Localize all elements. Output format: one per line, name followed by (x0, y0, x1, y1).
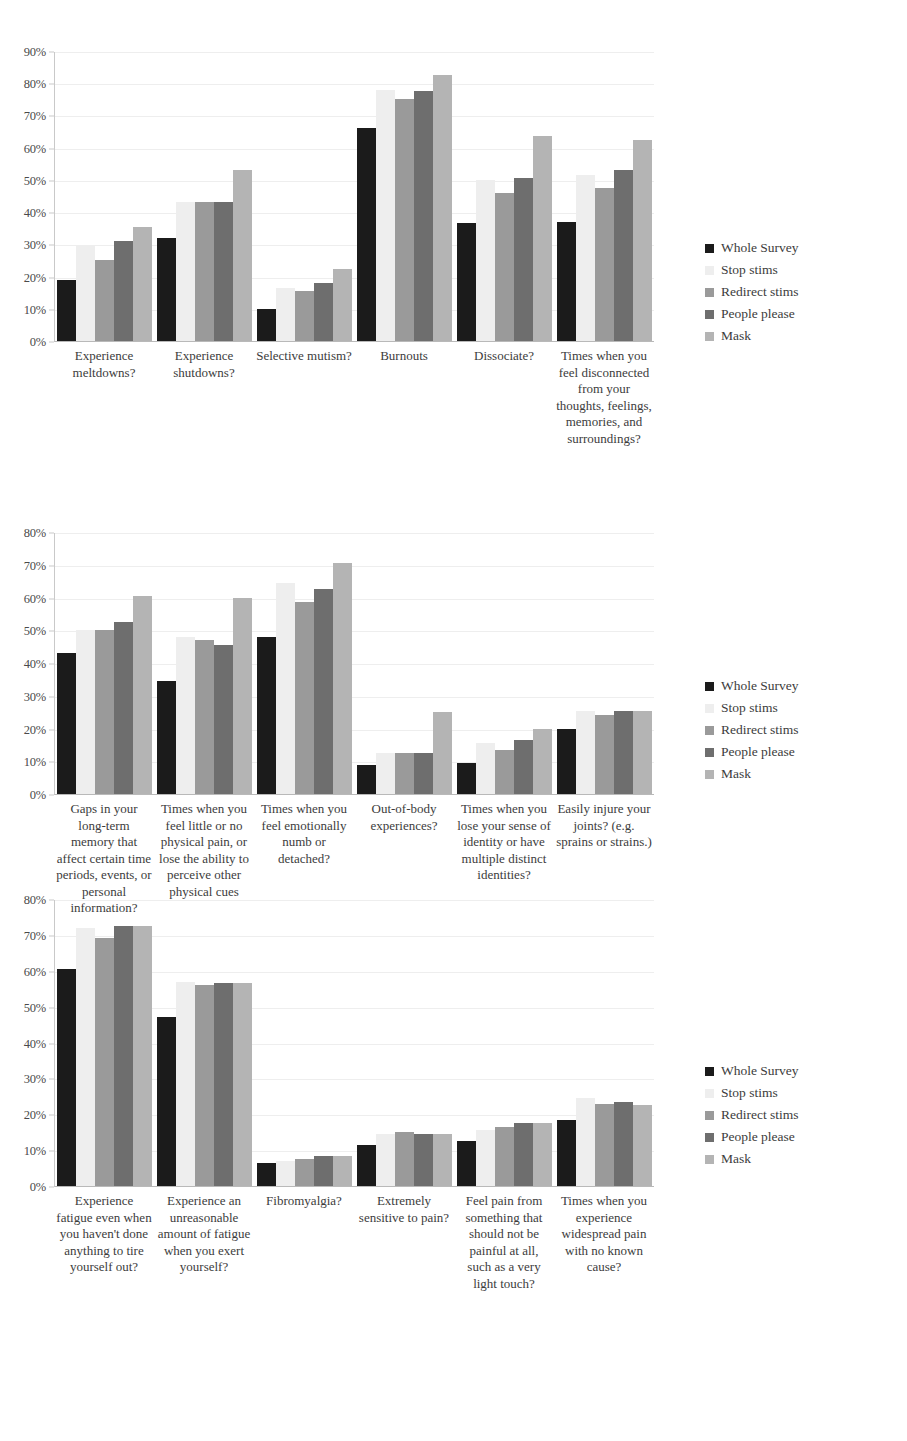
chart-1-bar-groups (55, 52, 654, 341)
legend-swatch-icon (705, 310, 714, 319)
bar (333, 1156, 352, 1186)
bar (295, 291, 314, 341)
bar (376, 90, 395, 341)
legend-item[interactable]: Whole Survey (705, 675, 799, 697)
bar (514, 740, 533, 794)
legend-item[interactable]: Redirect stims (705, 1104, 799, 1126)
bar (114, 926, 133, 1186)
legend-label: Whole Survey (721, 1063, 799, 1079)
legend-swatch-icon (705, 770, 714, 779)
bar (333, 269, 352, 342)
chart-1-plot-area (54, 52, 654, 342)
bar (576, 1098, 595, 1186)
bar (533, 729, 552, 795)
bar (576, 175, 595, 341)
bar (214, 645, 233, 794)
bar (457, 763, 476, 794)
legend-swatch-icon (705, 682, 714, 691)
bar (76, 928, 95, 1186)
y-axis-tick-label: 50% (24, 173, 46, 188)
bar (557, 222, 576, 341)
y-axis-tick-label: 0% (30, 335, 46, 350)
bar-group (554, 900, 654, 1186)
legend-item[interactable]: Mask (705, 325, 799, 347)
category-label: Experience meltdowns? (54, 348, 154, 447)
legend-swatch-icon (705, 244, 714, 253)
legend-item[interactable]: People please (705, 303, 799, 325)
bar (614, 170, 633, 341)
chart-1-legend: Whole SurveyStop stimsRedirect stimsPeop… (705, 237, 799, 347)
bar-group (554, 533, 654, 794)
legend-label: Mask (721, 328, 751, 344)
legend-label: People please (721, 1129, 795, 1145)
legend-item[interactable]: Mask (705, 763, 799, 785)
bar (95, 260, 114, 341)
legend-label: Redirect stims (721, 1107, 799, 1123)
bar (457, 223, 476, 341)
legend-item[interactable]: Redirect stims (705, 719, 799, 741)
chart-2-y-axis: 0%10%20%30%40%50%60%70%80% (0, 533, 54, 795)
legend-label: Stop stims (721, 1085, 778, 1101)
y-axis-tick-label: 80% (24, 77, 46, 92)
bar-group (354, 533, 454, 794)
bar (295, 1159, 314, 1186)
category-label: Extremely sensitive to pain? (354, 1193, 454, 1292)
bar (76, 630, 95, 794)
legend-item[interactable]: Redirect stims (705, 281, 799, 303)
bar (133, 596, 152, 794)
legend-swatch-icon (705, 1089, 714, 1098)
legend-item[interactable]: People please (705, 1126, 799, 1148)
bar (495, 193, 514, 341)
bar (433, 712, 452, 794)
bar (114, 622, 133, 794)
chart-1-category-labels: Experience meltdowns?Experience shutdown… (54, 348, 654, 447)
legend-item[interactable]: People please (705, 741, 799, 763)
legend-item[interactable]: Stop stims (705, 1082, 799, 1104)
bar-group (155, 52, 255, 341)
legend-label: People please (721, 306, 795, 322)
bar (57, 969, 76, 1186)
bar (357, 1145, 376, 1186)
bar (433, 1134, 452, 1186)
bar (57, 280, 76, 341)
bar (314, 1156, 333, 1186)
y-axis-tick-label: 60% (24, 591, 46, 606)
bar (557, 1120, 576, 1186)
legend-item[interactable]: Whole Survey (705, 1060, 799, 1082)
bar-group (55, 52, 155, 341)
bar-group (454, 533, 554, 794)
bar (595, 1104, 614, 1187)
bar (633, 1105, 652, 1186)
category-label: Experience an unreasonable amount of fat… (154, 1193, 254, 1292)
y-axis-tick-label: 20% (24, 1108, 46, 1123)
bar (433, 75, 452, 341)
bar (414, 91, 433, 341)
y-axis-tick-label: 40% (24, 657, 46, 672)
legend-item[interactable]: Whole Survey (705, 237, 799, 259)
y-axis-tick-label: 40% (24, 1036, 46, 1051)
bar (376, 1134, 395, 1186)
bar (276, 288, 295, 341)
legend-item[interactable]: Mask (705, 1148, 799, 1170)
bar (414, 1134, 433, 1186)
bar (276, 1161, 295, 1186)
bar-group (554, 52, 654, 341)
chart-3-category-labels: Experience fatigue even when you haven't… (54, 1193, 654, 1292)
bar (533, 1123, 552, 1186)
bar-group (55, 900, 155, 1186)
legend-item[interactable]: Stop stims (705, 697, 799, 719)
bar (276, 583, 295, 794)
legend-item[interactable]: Stop stims (705, 259, 799, 281)
y-axis-tick-label: 70% (24, 109, 46, 124)
bar-group (255, 533, 355, 794)
bar (476, 180, 495, 341)
bar (195, 640, 214, 794)
legend-swatch-icon (705, 726, 714, 735)
chart-2-plot-area (54, 533, 654, 795)
category-label: Times when you experience widespread pai… (554, 1193, 654, 1292)
bar (595, 715, 614, 794)
y-axis-tick-label: 0% (30, 1180, 46, 1195)
bar (295, 602, 314, 794)
bar (595, 188, 614, 341)
bar-group (55, 533, 155, 794)
